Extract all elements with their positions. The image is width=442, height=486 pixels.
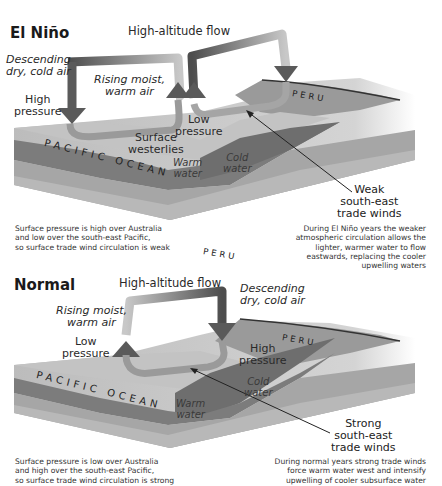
el-nino-high-pressure-label: High pressure bbox=[14, 94, 62, 118]
el-nino-rising-air-label: Rising moist, warm air bbox=[94, 74, 165, 98]
el-nino-cold-water-label: Cold water bbox=[223, 152, 252, 174]
el-nino-descending-air-label: Descending dry, cold air bbox=[6, 54, 71, 78]
normal-high-altitude-flow-label: High-altitude flow bbox=[119, 277, 221, 290]
normal-cold-water-label: Cold water bbox=[244, 376, 273, 398]
normal-caption-left: Surface pressure is low over Australia a… bbox=[15, 457, 174, 485]
el-nino-high-altitude-flow-label: High-altitude flow bbox=[128, 25, 230, 38]
normal-rising-air-label: Rising moist, warm air bbox=[56, 305, 127, 329]
el-nino-title: El Niño bbox=[10, 25, 69, 42]
normal-caption-right: During normal years strong trade winds f… bbox=[275, 457, 426, 485]
el-nino-surface-westerlies-label: Surface westerlies bbox=[128, 132, 184, 156]
normal-descending-air-label: Descending dry, cold air bbox=[240, 283, 305, 307]
normal-panel: Normal High-altitude flow Rising moist, … bbox=[0, 243, 442, 486]
normal-strong-trade-winds-label: Strong south-east trade winds bbox=[331, 418, 396, 454]
el-nino-weak-trade-winds-label: Weak south-east trade winds bbox=[337, 184, 402, 220]
normal-low-pressure-label: Low pressure bbox=[62, 336, 110, 360]
el-nino-panel: El Niño High-altitude flow Descending dr… bbox=[0, 0, 442, 243]
el-nino-warm-water-label: Warm water bbox=[173, 157, 202, 179]
normal-warm-water-label: Warm water bbox=[176, 398, 205, 420]
normal-high-pressure-label: High pressure bbox=[239, 343, 287, 367]
normal-title: Normal bbox=[14, 277, 75, 294]
